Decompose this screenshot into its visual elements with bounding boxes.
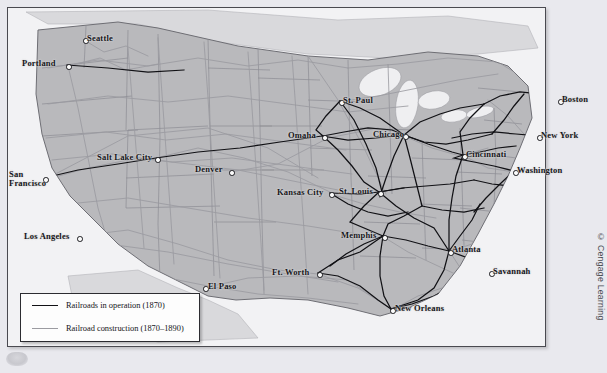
legend-label-operation: Railroads in operation (1870) — [66, 301, 165, 310]
city-label-savannah: Savannah — [493, 267, 531, 276]
city-label-salt-lake-city: Salt Lake City — [97, 153, 152, 162]
legend-label-construction: Railroad construction (1870–1890) — [66, 324, 184, 333]
city-dot-los-angeles — [77, 236, 83, 242]
copyright-credit: © Cengage Learning — [596, 232, 606, 321]
map-legend: Railroads in operation (1870) Railroad c… — [20, 293, 200, 342]
city-label-cincinnati: Cincinnati — [466, 150, 506, 159]
city-dot-salt-lake-city — [155, 157, 161, 163]
city-label-portland: Portland — [22, 59, 56, 68]
city-label-kansas-city: Kansas City — [277, 188, 323, 197]
city-label-san-francisco: San Francisco — [9, 170, 46, 188]
city-label-chicago: Chicago — [373, 130, 404, 139]
city-dot-memphis — [382, 235, 388, 241]
city-dot-omaha — [322, 135, 328, 141]
city-label-omaha: Omaha — [288, 131, 316, 140]
railroad-map-figure: Seattle Portland San Francisco Los Angel… — [0, 0, 607, 373]
city-label-boston: Boston — [562, 95, 588, 104]
city-label-ft-worth: Ft. Worth — [272, 268, 310, 277]
legend-item-operation: Railroads in operation (1870) — [21, 294, 199, 317]
legend-item-construction: Railroad construction (1870–1890) — [21, 317, 199, 340]
city-dot-kansas-city — [329, 192, 335, 198]
legend-swatch-operation-icon — [32, 305, 58, 306]
city-label-st-louis: St. Louis — [339, 187, 373, 196]
city-dot-denver — [229, 170, 235, 176]
city-dot-portland — [66, 64, 72, 70]
city-label-washington: Washington — [517, 166, 562, 175]
legend-swatch-construction-icon — [32, 328, 58, 329]
city-label-denver: Denver — [195, 165, 223, 174]
city-label-seattle: Seattle — [87, 34, 113, 43]
city-dot-st-louis — [378, 191, 384, 197]
city-label-new-orleans: New Orleans — [395, 304, 444, 313]
city-dot-ft-worth — [317, 272, 323, 278]
city-label-memphis: Memphis — [341, 231, 376, 240]
city-label-new-york: New York — [541, 131, 578, 140]
city-label-st-paul: St. Paul — [343, 96, 373, 105]
city-label-el-paso: El Paso — [208, 282, 237, 291]
city-label-atlanta: Atlanta — [452, 245, 481, 254]
page-corner-mark — [6, 352, 28, 366]
city-label-los-angeles: Los Angeles — [24, 232, 69, 241]
